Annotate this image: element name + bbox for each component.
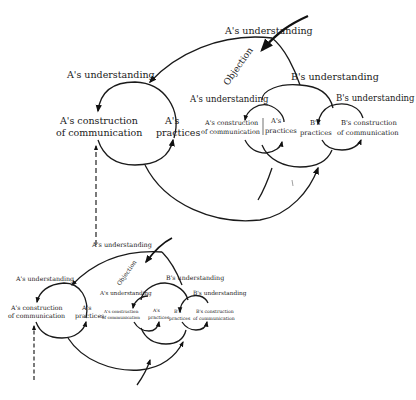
small-label-inner-a-understanding: A's understanding [99,290,152,297]
small-label-a-practices-1: A's [81,304,92,311]
large-figure: A's understanding A's understanding A's … [56,16,415,245]
big-arc-top [150,37,272,82]
label-a-practices-2: practices [156,127,200,138]
big-arc-bottom [145,165,318,221]
small-label-top-a-understanding: A's understanding [91,241,152,249]
label-b-practices-2: practices [300,129,332,137]
label-inner-a-construction-1: A's construction [204,119,258,127]
b-mid-loop-rightarc [300,85,333,108]
small-label-inner-a-practices-1: A's [152,308,161,313]
inner-a-loop-top [245,105,268,120]
a-loop-bottom [98,140,173,165]
small-b-right-bottom [182,322,207,330]
small-b-right-left [180,298,187,312]
small-label-b-construction-2: of communication [193,316,235,321]
small-b-mid-right [165,283,188,300]
small-label-b-practices-2: practices [169,316,191,321]
label-objection: Objection [221,45,255,87]
small-label-b-construction-1: B's construction [196,309,234,314]
small-label-inner-a-practices-2: practices [148,315,170,320]
label-inner-a-practices-2: practices [265,127,297,135]
label-b-construction-1: B's construction [341,119,397,127]
label-inner-a-practices-1: A's [270,117,282,125]
label-inner-a-construction-2: of communication [201,128,260,136]
small-big-arc-bottom [68,338,183,370]
b-right-loop-top [330,104,363,118]
small-inner-a-top [133,296,148,308]
small-figure: A's understanding A's understanding A's … [8,238,247,385]
small-inner-a-bottom [134,322,159,331]
label-a-practices-1: A's [164,115,179,126]
label-b-construction-2: of communication [337,129,399,137]
lower-entry-arrow [258,168,272,200]
small-label-a-practices-2: practices [75,312,104,320]
small-label-b-understanding-mid: B's understanding [166,274,224,282]
small-label-objection: Objection [115,258,138,287]
small-label-inner-a-construction-2: of communication [102,315,140,320]
small-a-loop-bottom [36,322,86,338]
label-b-practices-1: B's [310,119,321,127]
label-top-a-understanding: A's understanding [224,25,313,36]
b-right-loop-bottom [322,140,361,150]
small-label-inner-a-construction-1: A's construction [103,309,139,314]
small-label-a-construction-2: of communication [8,312,65,319]
label-a-construction-1: A's construction [59,115,138,126]
label-b-understanding-mid: B's understanding [291,71,379,82]
small-label-b-understanding-right: B's understanding [193,290,247,297]
diagram-canvas: A's understanding A's understanding A's … [0,0,416,400]
scan-mark [292,180,293,186]
small-lower-entry-arrow [137,360,150,385]
b-mid-loop-bottom [262,145,332,167]
label-left-a-understanding: A's understanding [66,69,155,80]
small-label-a-construction-1: A's construction [10,304,63,311]
small-label-b-practices-1: B's [174,309,182,314]
label-a-construction-2: of communication [56,127,142,138]
small-b-right-top [187,296,208,303]
small-label-left-a-understanding: A's understanding [15,275,74,283]
label-inner-a-understanding: A's understanding [189,94,269,104]
label-b-understanding-right: B's understanding [336,93,415,103]
inner-a-loop-bottom [245,140,282,153]
